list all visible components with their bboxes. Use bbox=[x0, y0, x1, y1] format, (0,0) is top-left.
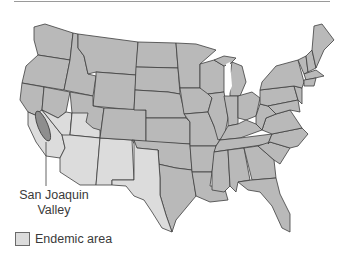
state-south-dakota bbox=[135, 67, 180, 94]
legend: Endemic area bbox=[15, 232, 112, 246]
state-new-york bbox=[260, 60, 304, 90]
legend-label-endemic: Endemic area bbox=[35, 232, 112, 246]
callout-line-2: Valley bbox=[14, 203, 94, 218]
state-maine bbox=[312, 24, 334, 68]
us-map bbox=[0, 0, 348, 262]
state-wyoming bbox=[93, 72, 136, 110]
state-florida bbox=[238, 178, 290, 232]
state-arizona bbox=[60, 135, 100, 185]
state-north-dakota bbox=[136, 42, 178, 68]
legend-swatch-endemic bbox=[15, 232, 30, 246]
state-montana bbox=[78, 34, 138, 75]
state-washington bbox=[34, 24, 73, 60]
state-colorado bbox=[100, 108, 146, 142]
state-california-north bbox=[20, 83, 44, 115]
state-kansas bbox=[146, 118, 190, 144]
state-new-mexico bbox=[96, 138, 134, 185]
state-michigan bbox=[230, 62, 246, 96]
callout-line-1: San Joaquin bbox=[14, 188, 94, 203]
state-wisconsin bbox=[200, 60, 224, 94]
san-joaquin-valley-label: San Joaquin Valley bbox=[14, 188, 94, 218]
state-mississippi bbox=[212, 150, 230, 192]
